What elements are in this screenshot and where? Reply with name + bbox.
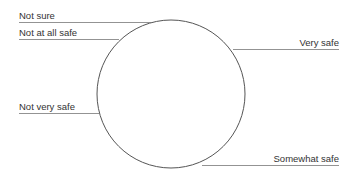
pie-outline [97, 20, 245, 168]
label-text: Somewhat safe [274, 153, 339, 164]
label-not-at-all-safe: Not at all safe [19, 27, 119, 40]
label-not-very-safe: Not very safe [19, 101, 99, 114]
label-text: Not sure [19, 10, 55, 21]
label-text: Very safe [299, 37, 339, 48]
pie-chart: Not sure Not at all safe Very safe Not v… [0, 0, 362, 179]
label-not-sure: Not sure [19, 10, 152, 23]
label-text: Not at all safe [19, 27, 77, 38]
label-somewhat-safe: Somewhat safe [202, 153, 339, 166]
label-very-safe: Very safe [233, 37, 339, 50]
label-text: Not very safe [19, 101, 75, 112]
